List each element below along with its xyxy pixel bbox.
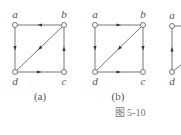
- vertex-label: a: [169, 9, 175, 21]
- arrowhead-icon: [117, 70, 122, 73]
- vertex-b-a: [93, 23, 98, 28]
- labels-layer: abcd(a)abcd(b)ad: [12, 8, 175, 103]
- nodes-layer: [13, 23, 175, 75]
- vertex-c-a: [170, 24, 175, 29]
- arrowhead-icon: [117, 23, 122, 26]
- arrowhead-icon: [37, 70, 42, 73]
- subfigure-label: (a): [34, 90, 47, 103]
- arrowhead-icon: [93, 46, 96, 51]
- arrowhead-icon: [170, 47, 173, 52]
- arrowhead-icon: [38, 23, 43, 26]
- figure-5-10: abcd(a)abcd(b)ad 图 5-10: [0, 0, 181, 135]
- vertex-label: c: [141, 75, 146, 87]
- vertex-label: b: [61, 8, 67, 20]
- vertex-b-c: [141, 70, 146, 75]
- vertex-a-b: [62, 23, 67, 28]
- arrowhead-icon: [62, 47, 65, 52]
- vertex-label: a: [92, 8, 98, 20]
- figure-caption: 图 5-10: [115, 107, 146, 118]
- vertex-a-d: [13, 70, 18, 75]
- arrowhead-icon: [141, 46, 144, 51]
- vertex-b-d: [93, 70, 98, 75]
- vertex-a-c: [62, 70, 67, 75]
- vertex-b-b: [141, 23, 146, 28]
- vertex-label: c: [62, 75, 67, 87]
- vertex-label: d: [169, 75, 175, 87]
- vertex-label: d: [92, 75, 98, 87]
- subfigure-label: (b): [112, 90, 125, 103]
- vertex-label: a: [12, 8, 18, 20]
- vertex-label: b: [140, 8, 146, 20]
- edges-layer: [13, 23, 181, 73]
- vertex-a-a: [13, 23, 18, 28]
- arrowhead-icon: [13, 46, 16, 51]
- vertex-label: d: [12, 75, 18, 87]
- vertex-c-d: [170, 70, 175, 75]
